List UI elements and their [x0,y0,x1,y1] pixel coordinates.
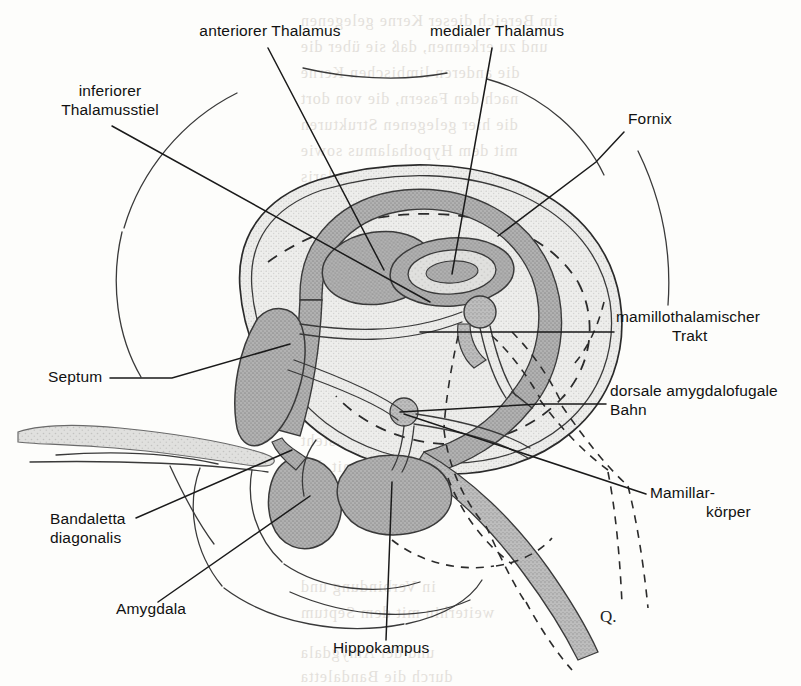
label-hippokampus: Hippokampus [333,639,430,656]
label-line: Fornix [628,110,672,127]
label-line: Hippokampus [333,639,430,656]
label-line: körper [706,503,751,520]
label-fornix: Fornix [628,110,672,127]
label-line: dorsale amygdalofugale [610,382,778,399]
label-line: Amygdala [116,600,186,617]
label-line: inferiorer [79,82,142,99]
label-anteriorer-thalamus: anteriorer Thalamus [199,22,340,39]
label-inferiorer-thalamusstiel: inferiorerThalamusstiel [61,82,159,118]
label-line: Mamillar- [650,484,715,501]
label-septum: Septum [48,368,102,385]
label-line: anteriorer Thalamus [199,22,340,39]
hippocampus-body [337,455,451,535]
label-bandaletta-diagonalis: Bandalettadiagonalis [50,510,126,546]
label-line: Septum [48,368,102,385]
label-line: medialer Thalamus [430,22,564,39]
label-amygdala: Amygdala [116,600,186,617]
label-line: mamillothalamischer [616,308,760,325]
label-line: Trakt [672,327,708,344]
label-dorsale-amygdalofugale-bahn: dorsale amygdalofugaleBahn [610,382,778,418]
artist-signature: Q. [600,607,617,626]
label-line: Bahn [610,401,647,418]
leader-amygdala [158,496,310,602]
amygdala-body [269,438,342,549]
label-mamillarkoerper: Mamillar-körper [650,484,751,520]
label-line: Thalamusstiel [61,101,159,118]
label-medialer-thalamus: medialer Thalamus [430,22,564,39]
label-line: diagonalis [50,529,121,546]
label-line: Bandaletta [50,510,126,527]
label-mamillothalamischer-trakt: mamillothalamischerTrakt [616,308,760,344]
